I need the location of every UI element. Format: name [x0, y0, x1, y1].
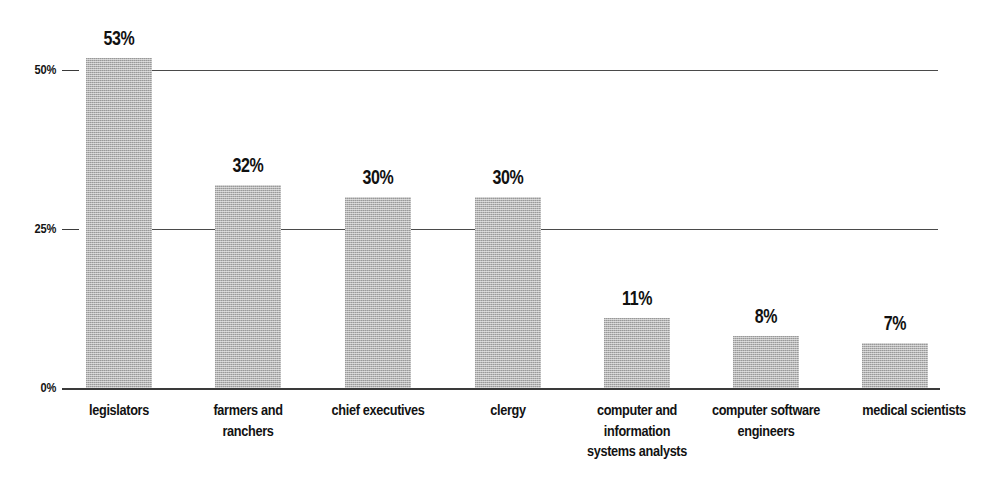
category-label-computer-software-engineers: computer software engineers	[692, 400, 840, 441]
bar-value-clergy: 30%	[468, 166, 548, 189]
bar-value-chief-executives: 30%	[338, 166, 418, 189]
tick-mark-50	[62, 70, 79, 71]
bar-medical-scientists	[862, 343, 928, 388]
bar-farmers-and-ranchers	[215, 185, 281, 388]
bar-clergy	[475, 197, 541, 388]
category-label-farmers-and-ranchers: farmers and ranchers	[182, 400, 313, 441]
category-label-computer-and-information-systems-analysts: computer and information systems analyst…	[567, 400, 706, 462]
bar-value-farmers-and-ranchers: 32%	[208, 154, 288, 177]
tick-mark-25	[62, 229, 79, 230]
ytick-label-0: 0%	[10, 380, 56, 395]
x-axis-line	[62, 388, 940, 390]
bar-legislators	[86, 58, 152, 388]
category-label-legislators: legislators	[53, 400, 184, 421]
category-label-chief-executives: chief executives	[308, 400, 447, 421]
category-label-clergy: clergy	[442, 400, 573, 421]
bar-value-computer-and-information-systems-analysts: 11%	[597, 287, 677, 310]
bar-chart: 50% 25% 0% 53% legislators 32% farmers a…	[0, 0, 991, 497]
ytick-label-25: 25%	[10, 221, 56, 236]
bar-computer-software-engineers	[733, 336, 799, 388]
plot-area: 50% 25% 0% 53% legislators 32% farmers a…	[0, 0, 991, 497]
tick-mark-0	[62, 388, 79, 389]
bar-chief-executives	[345, 197, 411, 388]
category-label-medical-scientists: medical scientists	[852, 400, 977, 421]
bar-value-medical-scientists: 7%	[855, 312, 935, 335]
bar-value-computer-software-engineers: 8%	[726, 305, 806, 328]
ytick-label-50: 50%	[10, 62, 56, 77]
bar-computer-and-information-systems-analysts	[604, 318, 670, 388]
bar-value-legislators: 53%	[79, 27, 159, 50]
gridline-50	[86, 70, 938, 71]
